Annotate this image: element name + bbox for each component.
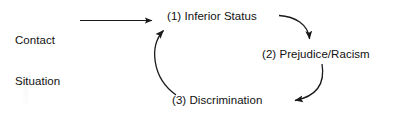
node-contact-situation: Contact Situation bbox=[15, 7, 60, 115]
contact-situation-line1: Contact bbox=[15, 34, 60, 48]
node-prejudice-racism: (2) Prejudice/Racism bbox=[262, 48, 370, 62]
cycle-diagram: Contact Situation (1) Inferior Status (2… bbox=[0, 0, 404, 120]
contact-situation-line2: Situation bbox=[15, 75, 60, 89]
connector-discrimination-to-inferior bbox=[155, 31, 176, 96]
connector-prejudice-to-discrimination bbox=[295, 64, 323, 101]
connector-inferior-to-prejudice bbox=[279, 16, 310, 40]
node-discrimination: (3) Discrimination bbox=[172, 94, 262, 108]
node-inferior-status: (1) Inferior Status bbox=[167, 10, 257, 24]
